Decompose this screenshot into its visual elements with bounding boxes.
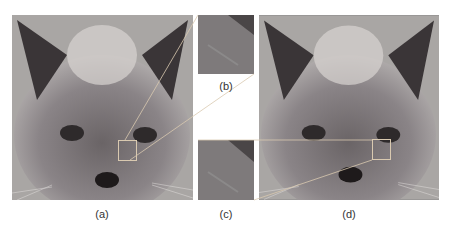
panel-c-image <box>198 140 254 200</box>
panel-d-image <box>259 15 439 200</box>
panel-c-label: (c) <box>206 208 246 220</box>
panel-b-label: (b) <box>206 80 246 92</box>
panel-a-image <box>12 15 193 200</box>
cat-face-illustration <box>12 15 193 200</box>
highlight-box <box>118 140 137 161</box>
panel-b-image <box>198 15 254 74</box>
panel-d-label: (d) <box>329 208 369 220</box>
panel-a-label: (a) <box>82 208 122 220</box>
fur-patch-illustration <box>198 140 254 200</box>
cat-face-illustration <box>259 15 439 200</box>
highlight-box <box>372 139 391 160</box>
fur-patch-illustration <box>198 15 254 74</box>
